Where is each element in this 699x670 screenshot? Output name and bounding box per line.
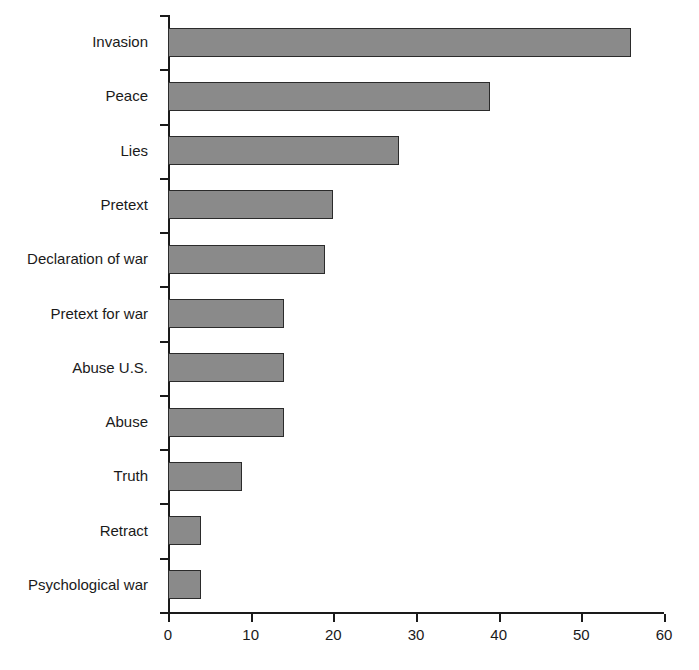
x-axis-tick-label: 20 <box>325 627 342 642</box>
y-axis-category-label: Declaration of war <box>27 251 148 266</box>
y-axis-category-label: Pretext for war <box>50 306 148 321</box>
y-axis-tick <box>160 178 168 180</box>
y-axis-tick <box>160 15 168 17</box>
y-axis-category-label: Lies <box>120 143 148 158</box>
x-axis-tick <box>499 614 501 622</box>
y-axis-tick <box>160 449 168 451</box>
y-axis-tick <box>160 503 168 505</box>
y-axis-tick <box>160 612 168 614</box>
y-axis-tick <box>160 286 168 288</box>
x-axis-tick-label: 0 <box>164 627 172 642</box>
y-axis-category-label: Retract <box>100 523 148 538</box>
bar <box>168 82 490 111</box>
y-axis-category-labels: InvasionPeaceLiesPretextDeclaration of w… <box>0 15 158 612</box>
y-axis-category-label: Pretext <box>100 197 148 212</box>
y-axis-category-label: Invasion <box>92 34 148 49</box>
x-axis-tick <box>251 614 253 622</box>
bar <box>168 570 201 599</box>
y-axis-tick <box>160 124 168 126</box>
bar <box>168 190 333 219</box>
y-axis-tick <box>160 232 168 234</box>
x-axis-tick-label: 40 <box>490 627 507 642</box>
x-axis-tick <box>581 614 583 622</box>
bar <box>168 408 284 437</box>
bar <box>168 245 325 274</box>
x-axis-tick-label: 60 <box>656 627 673 642</box>
x-axis-tick-label: 10 <box>242 627 259 642</box>
y-axis-category-label: Abuse <box>105 414 148 429</box>
y-axis-category-label: Peace <box>105 88 148 103</box>
bar <box>168 299 284 328</box>
x-axis-tick-label: 30 <box>408 627 425 642</box>
x-axis-tick <box>333 614 335 622</box>
bar <box>168 136 399 165</box>
x-axis-tick <box>664 614 666 622</box>
y-axis-category-label: Psychological war <box>28 577 148 592</box>
bar <box>168 28 631 57</box>
x-axis-tick-label: 50 <box>573 627 590 642</box>
y-axis-tick <box>160 395 168 397</box>
bar <box>168 353 284 382</box>
bar <box>168 516 201 545</box>
x-axis-line <box>168 612 664 614</box>
bar-chart: InvasionPeaceLiesPretextDeclaration of w… <box>0 0 699 670</box>
y-axis-tick <box>160 341 168 343</box>
x-axis-tick <box>416 614 418 622</box>
y-axis-tick <box>160 69 168 71</box>
bar <box>168 462 242 491</box>
x-axis-tick <box>168 614 170 622</box>
y-axis-category-label: Abuse U.S. <box>72 360 148 375</box>
y-axis-category-label: Truth <box>114 468 148 483</box>
y-axis-tick <box>160 558 168 560</box>
plot-area <box>168 15 664 612</box>
